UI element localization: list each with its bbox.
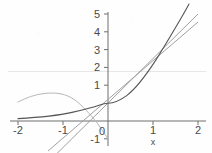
y-tick-marks [104, 14, 108, 139]
plot-svg: -2 -1 0 1 2 5 4 3 2 1 -1 x [0, 0, 212, 153]
ytick-label-4: 4 [94, 26, 100, 38]
x-axis-label: x [151, 137, 156, 147]
ytick-label-2: 2 [94, 61, 100, 73]
exponential-curve [18, 4, 189, 119]
xtick-label-1: 1 [150, 124, 156, 136]
tangent-line-visible [48, 22, 198, 151]
xtick-label-neg2: -2 [13, 124, 23, 136]
chart-container: -2 -1 0 1 2 5 4 3 2 1 -1 x [0, 0, 212, 153]
xtick-label-2: 2 [195, 124, 201, 136]
ytick-label-3: 3 [94, 44, 100, 56]
ytick-label-neg1: -1 [90, 133, 100, 145]
ytick-label-1: 1 [94, 79, 100, 91]
ytick-label-5: 5 [94, 8, 100, 20]
xtick-label-neg1: -1 [58, 124, 68, 136]
